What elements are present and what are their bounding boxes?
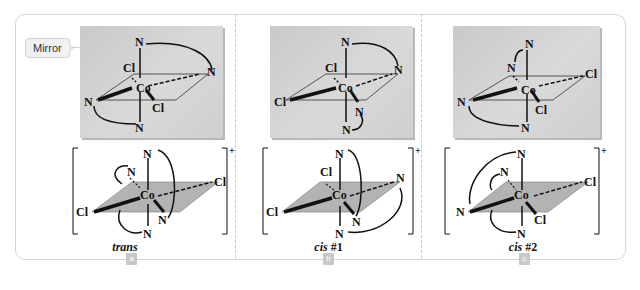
atom-label: Co bbox=[140, 188, 155, 202]
panel-cis-2: N N Cl Co N Cl N + N N Cl Co N Cl N cis … bbox=[422, 14, 624, 258]
atom-label: Cl bbox=[585, 67, 598, 81]
atom-label: Cl bbox=[274, 95, 287, 109]
panel-trans: N Cl N Co N Cl N + N N Cl Co Cl N N tran… bbox=[15, 14, 235, 258]
atom-label: Co bbox=[136, 81, 151, 95]
atom-label: Cl bbox=[325, 61, 338, 75]
atom-label: N bbox=[500, 165, 509, 179]
atom-label: N bbox=[521, 121, 530, 135]
atom-label: Cl bbox=[214, 175, 227, 189]
atom-label: N bbox=[143, 147, 152, 161]
complex-structure-cis-1: + N Cl N Co Cl N N bbox=[260, 144, 420, 239]
atom-label: N bbox=[158, 213, 167, 227]
atom-label: N bbox=[341, 35, 350, 49]
atom-label: Cl bbox=[535, 103, 548, 117]
atom-label: N bbox=[84, 95, 93, 109]
panel-badge-b: b bbox=[323, 253, 334, 265]
atom-label: N bbox=[342, 123, 351, 137]
atom-label: N bbox=[352, 215, 361, 229]
atom-label: Cl bbox=[76, 205, 89, 219]
mirror-structure-cis-2: N N Cl Co N Cl N bbox=[453, 26, 600, 138]
atom-label: N bbox=[135, 121, 144, 135]
atom-label: Cl bbox=[152, 101, 165, 115]
mirror-image-box: N N Cl Co N Cl N bbox=[453, 26, 600, 138]
atom-label: N bbox=[127, 165, 136, 179]
isomer-name: trans bbox=[112, 240, 137, 254]
atom-label: N bbox=[355, 105, 364, 119]
complex-structure-trans: + N N Cl Co Cl N N bbox=[70, 144, 240, 239]
atom-label: Cl bbox=[266, 205, 279, 219]
charge-label: + bbox=[415, 145, 420, 156]
atom-label: N bbox=[394, 63, 403, 77]
mirror-image-box: N Cl N Co N Cl N bbox=[80, 26, 223, 138]
atom-label: Co bbox=[514, 188, 529, 202]
atom-label: Co bbox=[338, 81, 353, 95]
atom-label: Cl bbox=[123, 61, 136, 75]
atom-label: N bbox=[335, 227, 344, 239]
atom-label: N bbox=[517, 227, 526, 239]
mirror-structure-cis-1: N Cl N Co Cl N N bbox=[270, 26, 413, 138]
atom-label: N bbox=[135, 35, 144, 49]
panel-badge-a: a bbox=[126, 253, 137, 265]
atom-label: N bbox=[525, 37, 534, 51]
caption-trans: trans bbox=[15, 240, 235, 255]
charge-label: + bbox=[601, 145, 607, 156]
atom-label: N bbox=[507, 61, 516, 75]
charge-label: + bbox=[229, 145, 235, 156]
atom-label: N bbox=[143, 227, 152, 239]
panel-cis-1: N Cl N Co Cl N N + N Cl N Co Cl N N cis … bbox=[236, 14, 421, 258]
complex-structure-cis-2: + N N Cl Co N Cl N bbox=[442, 144, 622, 239]
isomer-name: cis bbox=[314, 240, 327, 254]
atom-label: N bbox=[335, 147, 344, 161]
mirror-image-box: N Cl N Co Cl N N bbox=[270, 26, 413, 138]
atom-label: N bbox=[396, 171, 405, 185]
atom-label: Co bbox=[332, 188, 347, 202]
atom-label: N bbox=[457, 95, 466, 109]
atom-label: N bbox=[456, 205, 465, 219]
mirror-structure-trans: N Cl N Co N Cl N bbox=[80, 26, 223, 138]
atom-label: Cl bbox=[320, 165, 333, 179]
atom-label: Cl bbox=[534, 213, 547, 227]
atom-label: N bbox=[517, 147, 526, 161]
atom-label: N bbox=[207, 65, 216, 79]
atom-label: Cl bbox=[584, 175, 597, 189]
atom-label: Co bbox=[521, 83, 536, 97]
panel-badge-c: c bbox=[519, 253, 530, 265]
isomer-name: cis bbox=[509, 240, 522, 254]
